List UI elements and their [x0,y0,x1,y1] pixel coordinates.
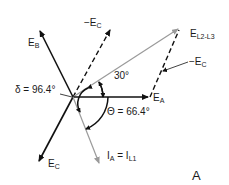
label-e-l2-l3-sub: L2-L3 [197,33,215,40]
vector-i-a [73,97,99,163]
leader-neg-e-c [163,62,188,71]
label-e-l2-l3-main: E [190,28,197,39]
label-e-a: EA [153,93,164,104]
label-neg-e-c-upper-sub: C [97,22,102,29]
label-e-b-sub: B [35,42,40,49]
label-neg-e-c-right-main: −E [189,56,202,67]
label-e-l2-l3: EL2-L3 [190,29,215,40]
label-e-b-main: E [28,37,35,48]
label-delta: δ = 96.4° [15,85,55,95]
label-e-c: EC [48,159,60,170]
angle-arc-delta [78,88,88,112]
label-neg-e-c-right-sub: C [202,61,207,68]
label-e-c-sub: C [55,163,60,170]
label-neg-e-c-upper: −EC [84,18,102,29]
angle-arc-30-b [99,82,103,97]
label-e-c-main: E [48,158,55,169]
label-e-a-main: E [153,92,160,103]
label-e-a-sub: A [160,97,165,104]
label-theta: Θ = 66.4° [107,107,150,117]
label-i-a-eq-sub: L1 [129,155,137,162]
vector-e-c [39,97,73,161]
label-neg-e-c-upper-main: −E [84,17,97,28]
vector-e-l2-l3 [73,29,178,97]
label-e-b: EB [28,38,39,49]
leader-delta [60,94,72,97]
vector-neg-e-c-translated [150,30,179,97]
label-i-a: IA = IL1 [107,151,136,162]
label-i-a-eq: = I [114,150,128,161]
panel-label: A [192,168,201,183]
angle-arc-theta [86,97,108,129]
vector-neg-e-c-upper [73,30,110,97]
label-neg-e-c-right: −EC [189,57,207,68]
label-angle-30: 30° [114,71,129,81]
